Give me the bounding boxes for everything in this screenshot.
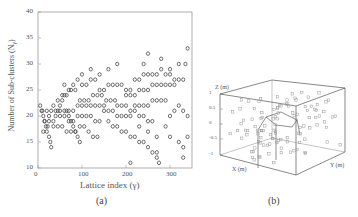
ytick-label: 10	[26, 163, 33, 171]
ztick-label: 0.5	[209, 105, 215, 110]
plot-a-xlabel: Lattice index (γ)	[80, 180, 139, 190]
plot-a-ticks	[38, 12, 170, 168]
ylabel-text: Number of Sub-clusters (N	[7, 45, 16, 132]
ztick-label: 0	[209, 120, 212, 125]
caption-a: (a)	[96, 195, 107, 206]
xtick-label: 300	[166, 170, 177, 178]
ytick-label: 20	[26, 111, 33, 119]
plot-b-points	[229, 91, 341, 163]
ytick-label: 15	[26, 137, 33, 145]
xtick-label: 100	[78, 170, 89, 178]
xtick-label: 200	[122, 170, 133, 178]
ztick-label: -0.5	[209, 135, 217, 140]
ytick-label: 30	[26, 59, 33, 67]
ztick-label: 1	[209, 90, 212, 95]
plot-a-points	[39, 47, 190, 165]
plot-a-frame	[38, 12, 192, 168]
figure	[0, 0, 358, 217]
ytick-label: 25	[26, 85, 33, 93]
plot-b-ticks	[220, 94, 223, 155]
ylabel-end: )	[7, 39, 16, 42]
ytick-label: 40	[26, 7, 33, 15]
plot-b-box	[220, 80, 345, 175]
caption-b: (b)	[268, 195, 280, 206]
plot-a-ylabel: Number of Sub-clusters (Nγ)	[7, 35, 18, 135]
plot-b-ylabel: Y (m)	[330, 162, 344, 168]
plot-b-xlabel: X (m)	[232, 166, 247, 172]
ytick-label: 35	[26, 33, 33, 41]
xtick-label: 0	[34, 170, 38, 178]
plot-b-zlabel: Z (m)	[215, 84, 229, 90]
ztick-label: -1	[209, 151, 213, 156]
